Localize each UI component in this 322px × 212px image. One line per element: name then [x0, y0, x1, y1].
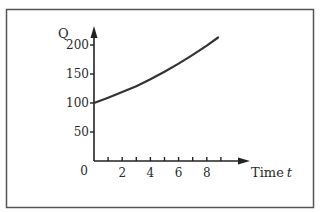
y-axis-label: Q: [58, 26, 69, 41]
x-tick-label: 2: [118, 166, 126, 180]
x-tick-label: 4: [147, 166, 155, 180]
y-tick-label: 100: [66, 96, 89, 110]
tick-labels: 501001502002468: [66, 38, 211, 180]
x-axis-label-text: Time: [251, 165, 284, 180]
origin-label: 0: [80, 164, 88, 178]
ticks: [90, 45, 221, 161]
y-tick-label: 150: [66, 67, 89, 81]
x-tick-label: 8: [203, 166, 211, 180]
y-tick-label: 50: [74, 125, 89, 139]
x-tick-label: 6: [175, 166, 183, 180]
x-axis-label-var: t: [287, 165, 293, 180]
series-line-q: [94, 38, 218, 104]
x-axis-arrow-icon: [238, 158, 250, 165]
y-axis-arrow-icon: [91, 26, 98, 38]
x-axis-label: Timet: [251, 165, 293, 180]
y-tick-label: 200: [66, 38, 89, 52]
chart: 501001502002468 Q Timet 0: [0, 0, 322, 212]
